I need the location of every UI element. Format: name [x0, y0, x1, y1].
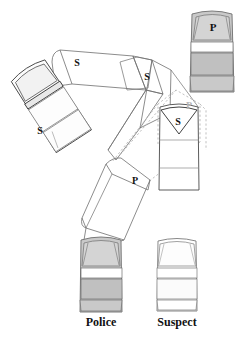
- vehicle-marker-S: S: [175, 116, 181, 127]
- legend-label-police: Police: [86, 315, 117, 329]
- trajectory-marker-S: S: [74, 57, 80, 68]
- vehicle-police-final-top-right: P: [190, 11, 234, 92]
- car-trunk: [190, 76, 234, 91]
- diagram-canvas: P S P S S S P: [0, 0, 242, 338]
- car-roof-band: [81, 268, 122, 278]
- car-rear-window: [157, 279, 197, 299]
- legend-label-suspect: Suspect: [157, 315, 196, 329]
- car-roof-band: [191, 42, 233, 52]
- vehicle-marker-P: P: [210, 21, 217, 33]
- trajectory-marker-P-faint: P: [186, 100, 192, 111]
- car-rear-window: [81, 279, 122, 299]
- car-trunk: [157, 300, 197, 310]
- vehicle-marker-S: S: [37, 125, 43, 136]
- vehicle-suspect-start-bottom-right: [157, 239, 197, 312]
- trajectory-marker-S: S: [144, 71, 150, 82]
- vehicle-police-start-bottom-left: [80, 237, 122, 312]
- car-trunk: [80, 300, 122, 311]
- car-roof-band: [157, 268, 197, 278]
- trajectory-marker-P: P: [132, 175, 138, 186]
- car-rear-window: [191, 53, 233, 75]
- vehicle-suspect-final-center-right: S: [159, 104, 199, 190]
- accident-reconstruction-diagram: P S P S S S P: [0, 0, 242, 338]
